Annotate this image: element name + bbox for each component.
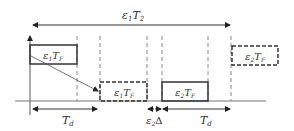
td-right-label: Td bbox=[200, 114, 212, 128]
box-e1tf-dashed-label: ε1TF bbox=[114, 87, 135, 99]
shift-arrow bbox=[31, 56, 98, 91]
timing-diagram: ε1T2 ε1TF ε1TF ε2TF ε2TF Td ε2Δ Td bbox=[0, 0, 294, 131]
td-left-label: Td bbox=[62, 114, 74, 128]
top-span-label: ε1T2 bbox=[122, 9, 145, 23]
box-e2tf-solid-label: ε2TF bbox=[175, 87, 196, 99]
box-e1tf-solid-label: ε1TF bbox=[43, 50, 64, 62]
delta-label: ε2Δ bbox=[146, 115, 162, 127]
box-e2tf-dashed-label: ε2TF bbox=[245, 51, 266, 63]
